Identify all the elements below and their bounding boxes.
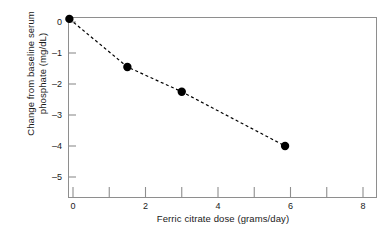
x-axis-tick-marks — [73, 187, 363, 198]
x-axis-label: Ferric citrate dose (grams/day) — [68, 213, 378, 224]
y-axis-tick-label: –4 — [36, 141, 62, 151]
chart-figure: Change from baseline serum phosphate (mg… — [0, 0, 389, 235]
y-axis-tick-label: 0 — [36, 17, 62, 27]
x-axis-tick-label: 0 — [70, 201, 75, 211]
y-axis-tick-label: –2 — [36, 79, 62, 89]
y-axis-tick-marks — [68, 22, 76, 177]
x-axis-tick-label: 8 — [360, 201, 365, 211]
y-axis-tick-label: –3 — [36, 110, 62, 120]
y-axis-tick-label: –1 — [36, 48, 62, 58]
x-axis-tick-label: 6 — [288, 201, 293, 211]
y-axis-tick-label: –5 — [36, 172, 62, 182]
series-markers — [65, 15, 289, 151]
series-line-dashed — [69, 19, 285, 146]
x-axis-tick-label: 4 — [215, 201, 220, 211]
x-axis-tick-label: 2 — [143, 201, 148, 211]
